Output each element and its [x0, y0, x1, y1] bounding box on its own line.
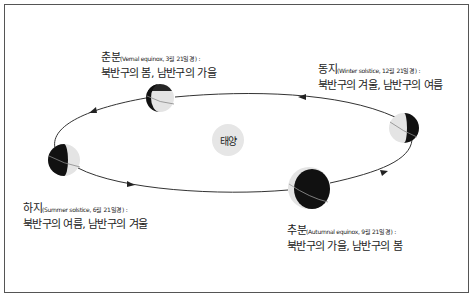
earth-vernal-icon [146, 84, 174, 112]
season-name: 동지 [318, 63, 337, 76]
orbit-arrow-icon [127, 181, 135, 187]
winter-solstice-label: 동지(Winter solstice, 12월 21일경) : 북반구의 겨울,… [318, 58, 442, 93]
season-english: (Summer solstice, 6월 21일경) : [42, 206, 127, 213]
season-english: (Winter solstice, 12월 21일경) : [337, 67, 420, 74]
season-description: 북반구의 봄, 남반구의 가을 [101, 67, 216, 81]
season-description: 북반구의 겨울, 남반구의 여름 [318, 79, 442, 93]
season-name: 하지 [23, 202, 42, 215]
earth-winter-icon [389, 113, 419, 143]
season-name: 춘분 [101, 51, 120, 64]
autumnal-equinox-label: 추분(Autumnal equinox, 9월 21일경) : 북반구의 가을,… [287, 219, 402, 254]
vernal-equinox-label: 춘분(Vernal equinox, 3월 21일경) : 북반구의 봄, 남반… [101, 46, 216, 81]
orbit-arrow-icon [89, 107, 97, 113]
season-description: 북반구의 여름, 남반구의 겨울 [23, 218, 147, 232]
season-english: (Autumnal equinox, 9월 21일경) : [306, 228, 396, 235]
orbit-arrow-icon [298, 94, 306, 100]
earth-autumnal-icon [288, 167, 330, 209]
summer-solstice-label: 하지(Summer solstice, 6월 21일경) : 북반구의 여름, … [23, 197, 147, 232]
season-name: 추분 [287, 224, 306, 237]
orbit-diagram [0, 0, 474, 299]
orbit-arrow-icon [380, 170, 388, 176]
sun-label: 태양 [211, 133, 245, 148]
earth-summer-icon [48, 144, 80, 176]
season-english: (Vernal equinox, 3월 21일경) : [120, 55, 200, 62]
season-description: 북반구의 가을, 남반구의 봄 [287, 240, 402, 254]
